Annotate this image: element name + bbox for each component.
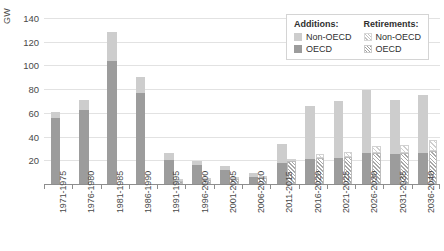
bar-additions[interactable] <box>136 77 146 184</box>
x-tick-mark <box>185 184 186 189</box>
y-axis-tick-label: 40 <box>28 131 39 142</box>
y-axis-tick-label: 120 <box>23 36 39 47</box>
x-label-cell: 1991-1995 <box>157 190 185 248</box>
x-tick-mark <box>101 184 102 189</box>
x-tick-mark <box>72 184 73 189</box>
x-label-cell: 1981-1985 <box>101 190 129 248</box>
bar-group <box>214 12 242 184</box>
x-axis-tick-label: 1986-1990 <box>143 171 153 213</box>
x-axis-tick-label: 2011-2015 <box>284 171 294 212</box>
x-label-cell: 1976-1980 <box>72 190 100 248</box>
x-axis-tick-label: 2026-2030 <box>369 171 379 213</box>
x-axis-tick-label: 2016-2020 <box>313 171 323 213</box>
legend-item[interactable]: OECD <box>364 44 422 54</box>
bar-segment-add-nonoecd[interactable] <box>390 100 400 155</box>
legend-swatch-icon <box>364 45 372 53</box>
y-axis-tick-label: 60 <box>28 107 39 118</box>
legend-item-label: Non-OECD <box>306 32 352 42</box>
bar-segment-add-nonoecd[interactable] <box>79 100 89 111</box>
x-axis-tick-label: 2036-2040 <box>426 171 436 213</box>
x-label-cell: 2006-2010 <box>242 190 270 248</box>
x-tick-mark <box>270 184 271 189</box>
x-tick-mark <box>383 184 384 189</box>
bar-segment-add-nonoecd[interactable] <box>418 95 428 153</box>
legend-swatch-icon <box>294 45 302 53</box>
bar-segment-add-oecd[interactable] <box>107 61 117 184</box>
x-label-cell: 2011-2015 <box>270 190 298 248</box>
bar-group <box>129 12 157 184</box>
bar-segment-add-nonoecd[interactable] <box>107 32 117 60</box>
x-tick-mark <box>299 184 300 189</box>
legend-swatch-icon <box>294 33 302 41</box>
bar-segment-add-nonoecd[interactable] <box>305 106 315 159</box>
x-tick-mark <box>157 184 158 189</box>
bar-group <box>157 12 185 184</box>
x-label-cell: 1996-2000 <box>185 190 213 248</box>
y-axis-tick-label: 140 <box>23 12 39 23</box>
x-axis-tick-label: 2001-2005 <box>228 171 238 213</box>
bar-group <box>72 12 100 184</box>
bar-segment-add-nonoecd[interactable] <box>136 77 146 92</box>
chart-legend: Additions:Non-OECDOECDRetirements:Non-OE… <box>286 14 429 60</box>
x-axis-labels: 1971-19751976-19801981-19851986-19901991… <box>44 190 440 248</box>
x-axis-tick-label: 1996-2000 <box>200 171 210 213</box>
legend-item-label: OECD <box>306 44 332 54</box>
bar-segment-ret-nonoecd[interactable] <box>372 146 380 153</box>
x-tick-mark <box>439 184 440 189</box>
x-axis-tick-label: 2006-2010 <box>256 171 266 213</box>
y-axis-tick-label: 20 <box>28 155 39 166</box>
x-label-cell: 2026-2030 <box>355 190 383 248</box>
bar-segment-ret-nonoecd[interactable] <box>400 145 408 153</box>
legend-item[interactable]: OECD <box>294 44 352 54</box>
x-axis-tick-label: 1971-1975 <box>58 171 68 213</box>
x-tick-mark <box>327 184 328 189</box>
legend-item-label: Non-OECD <box>376 32 422 42</box>
legend-item[interactable]: Non-OECD <box>364 32 422 42</box>
x-label-cell: 1986-1990 <box>129 190 157 248</box>
x-axis-tick-label: 1976-1980 <box>86 171 96 213</box>
x-label-cell: 2036-2040 <box>412 190 440 248</box>
x-label-cell: 1971-1975 <box>44 190 72 248</box>
bar-group <box>185 12 213 184</box>
legend-item-label: OECD <box>376 44 402 54</box>
bar-segment-add-nonoecd[interactable] <box>362 90 372 153</box>
x-tick-mark <box>214 184 215 189</box>
x-label-cell: 2001-2005 <box>214 190 242 248</box>
x-label-cell: 2031-2035 <box>383 190 411 248</box>
y-axis-tick-label: 80 <box>28 84 39 95</box>
x-label-cell: 2016-2020 <box>299 190 327 248</box>
x-axis-ticks <box>44 184 440 189</box>
legend-swatch-icon <box>364 33 372 41</box>
bar-group <box>242 12 270 184</box>
x-label-cell: 2021-2025 <box>327 190 355 248</box>
x-tick-mark <box>242 184 243 189</box>
x-axis-tick-label: 2021-2025 <box>341 171 351 213</box>
bar-segment-add-nonoecd[interactable] <box>334 101 344 158</box>
x-axis-tick-label: 2031-2035 <box>398 171 408 213</box>
x-axis-tick-label: 1981-1985 <box>115 171 125 213</box>
y-axis-tick-label: 100 <box>23 60 39 71</box>
y-axis-title: GW <box>2 8 12 24</box>
legend-column: Additions:Non-OECDOECD <box>294 19 352 54</box>
chart-container: GW 20406080100120140 1971-19751976-19801… <box>0 0 444 251</box>
x-tick-mark <box>412 184 413 189</box>
legend-item[interactable]: Non-OECD <box>294 32 352 42</box>
x-axis-tick-label: 1991-1995 <box>171 171 181 213</box>
bar-group <box>44 12 72 184</box>
bar-group <box>101 12 129 184</box>
bar-segment-add-nonoecd[interactable] <box>164 153 174 160</box>
legend-header: Additions: <box>294 19 352 29</box>
legend-header: Retirements: <box>364 19 422 29</box>
legend-column: Retirements:Non-OECDOECD <box>364 19 422 54</box>
x-tick-mark <box>129 184 130 189</box>
x-tick-mark <box>355 184 356 189</box>
bar-segment-add-nonoecd[interactable] <box>277 144 287 163</box>
x-tick-mark <box>44 184 45 189</box>
bar-additions[interactable] <box>107 32 117 184</box>
bar-segment-ret-nonoecd[interactable] <box>429 140 437 151</box>
